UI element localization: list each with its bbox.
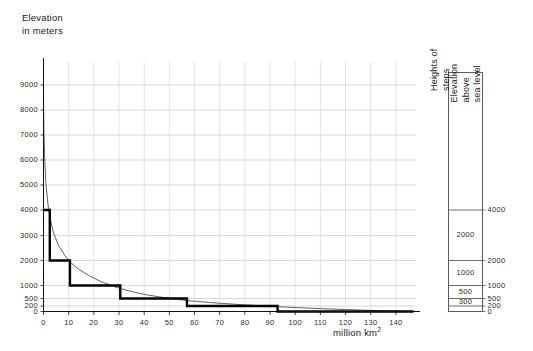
- x-tick-label: 90: [257, 318, 283, 327]
- step-height-label: 300: [449, 297, 483, 306]
- x-axis-title-text: million km: [333, 327, 377, 338]
- y-tick-label: 7000: [4, 130, 38, 139]
- x-tick-label: 100: [282, 318, 308, 327]
- panel-elevation-label: 0: [488, 307, 492, 316]
- y-tick-label: 1000: [4, 281, 38, 290]
- x-tick-label: 110: [307, 318, 333, 327]
- figure-canvas: Elevation in meters 02005001000200030004…: [0, 0, 533, 351]
- x-tick-label: 80: [232, 318, 258, 327]
- panel-elevation-label: 1000: [488, 281, 506, 290]
- y-tick-label: 5000: [4, 180, 38, 189]
- x-tick-label: 30: [106, 318, 132, 327]
- x-tick-label: 60: [182, 318, 208, 327]
- x-tick-label: 140: [383, 318, 409, 327]
- y-tick-label: 6000: [4, 155, 38, 164]
- x-tick-label: 70: [207, 318, 233, 327]
- panel-elevation-label: 2000: [488, 256, 506, 265]
- x-tick-label: 10: [56, 318, 82, 327]
- y-tick-label: 4000: [4, 205, 38, 214]
- y-tick-label: 3000: [4, 231, 38, 240]
- y-tick-label: 9000: [4, 80, 38, 89]
- x-tick-label: 40: [131, 318, 157, 327]
- y-tick-label: 8000: [4, 105, 38, 114]
- step-height-label: 1000: [449, 268, 483, 277]
- hypsographic-curve: [44, 100, 417, 312]
- panel-caption-elevation-above-sea-level: Elevation above sea level: [449, 64, 484, 103]
- x-tick-label: 50: [156, 318, 182, 327]
- x-axis-title: million km2: [333, 326, 381, 338]
- x-tick-label: 0: [31, 318, 57, 327]
- x-axis-title-exponent: 2: [377, 326, 381, 333]
- step-height-label: 2000: [449, 230, 483, 239]
- x-tick-label: 20: [81, 318, 107, 327]
- y-tick-label: 2000: [4, 256, 38, 265]
- y-tick-label: 500: [4, 294, 38, 303]
- step-height-label: 500: [449, 287, 483, 296]
- panel-elevation-label: 4000: [488, 205, 506, 214]
